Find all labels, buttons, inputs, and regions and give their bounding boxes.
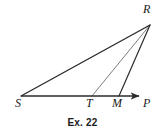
geometry-figure: R S T M P Ex. 22 xyxy=(0,0,165,138)
vertex-label-P: P xyxy=(143,97,150,109)
vertex-label-M: M xyxy=(112,97,122,109)
segment-MR xyxy=(119,25,150,96)
segment-SR xyxy=(21,25,150,96)
vertex-label-T: T xyxy=(86,97,93,109)
vertex-label-R: R xyxy=(143,3,150,15)
segment-TR xyxy=(92,25,150,96)
vertex-label-S: S xyxy=(15,97,21,109)
figure-caption: Ex. 22 xyxy=(0,117,165,129)
